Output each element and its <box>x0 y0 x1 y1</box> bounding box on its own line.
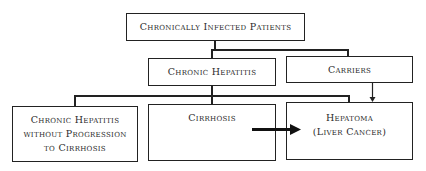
cirrhosis-to-hepatoma-arrow-icon <box>252 124 301 135</box>
carriers-to-hepatoma-arrow-icon <box>370 83 376 102</box>
arrows-layer <box>0 0 426 171</box>
